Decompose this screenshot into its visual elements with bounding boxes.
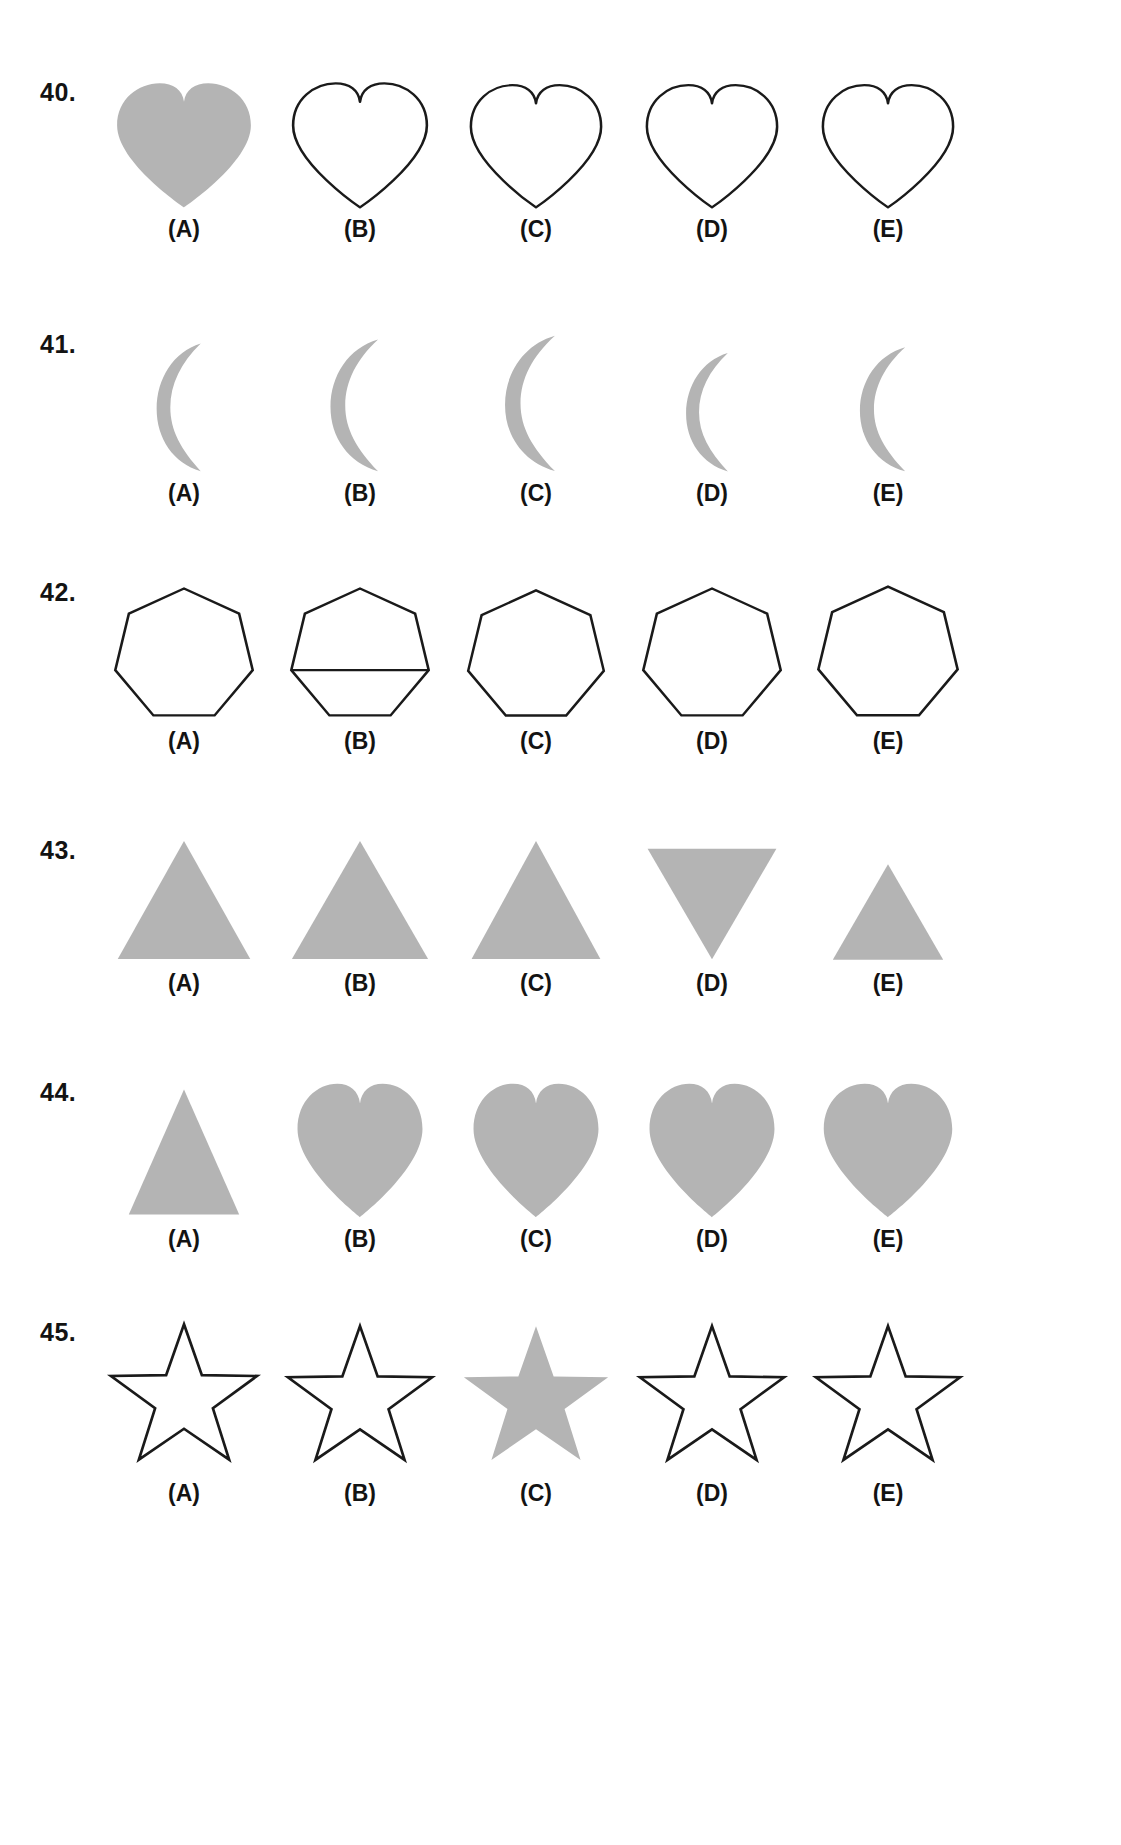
- option-label: (E): [873, 1226, 904, 1253]
- option-label: (A): [168, 970, 200, 997]
- heart-icon: [815, 1078, 961, 1220]
- option-label: (E): [873, 970, 904, 997]
- answer-option[interactable]: (C): [448, 836, 624, 997]
- option-label: (D): [696, 1480, 728, 1507]
- heart-icon: [465, 1078, 607, 1220]
- heart-icon: [289, 1078, 431, 1220]
- option-label: (C): [520, 480, 552, 507]
- answer-option[interactable]: (A): [96, 836, 272, 997]
- question-number: 41.: [40, 330, 76, 359]
- option-list: (A)(B)(C)(D)(E): [96, 578, 1111, 755]
- answer-option[interactable]: (D): [624, 330, 800, 507]
- question-number: 45.: [40, 1318, 76, 1347]
- option-label: (E): [873, 1480, 904, 1507]
- answer-option[interactable]: (B): [272, 1078, 448, 1253]
- option-label: (B): [344, 1226, 376, 1253]
- heart-icon: [108, 78, 260, 210]
- answer-option[interactable]: (B): [272, 836, 448, 997]
- answer-option[interactable]: (A): [96, 78, 272, 243]
- worksheet-page: 40.(A)(B)(C)(D)(E)41.(A)(B)(C)(D)(E)42.(…: [0, 0, 1121, 1845]
- crescent-icon: [146, 330, 222, 474]
- heart-icon: [641, 1078, 783, 1220]
- triangle-icon: [642, 836, 782, 964]
- answer-option[interactable]: (A): [96, 1078, 272, 1253]
- question-number: 42.: [40, 578, 76, 607]
- answer-option[interactable]: (E): [800, 78, 976, 243]
- option-label: (A): [168, 728, 200, 755]
- answer-option[interactable]: (E): [800, 1318, 976, 1507]
- answer-option[interactable]: (C): [448, 330, 624, 507]
- option-label: (A): [168, 1480, 200, 1507]
- option-label: (B): [344, 216, 376, 243]
- answer-option[interactable]: (B): [272, 578, 448, 755]
- answer-option[interactable]: (D): [624, 578, 800, 755]
- question-number: 44.: [40, 1078, 76, 1107]
- crescent-icon: [493, 330, 579, 474]
- answer-option[interactable]: (B): [272, 78, 448, 243]
- heptagon-icon: [812, 578, 964, 722]
- option-label: (D): [696, 1226, 728, 1253]
- heptagon-icon: [637, 578, 787, 722]
- star-icon: [633, 1318, 791, 1474]
- option-label: (E): [873, 728, 904, 755]
- option-label: (D): [696, 728, 728, 755]
- triangle-icon: [466, 836, 606, 964]
- crescent-icon: [676, 330, 748, 474]
- answer-option[interactable]: (C): [448, 78, 624, 243]
- heart-icon: [284, 78, 436, 210]
- star-icon: [281, 1318, 439, 1474]
- answer-option[interactable]: (C): [448, 578, 624, 755]
- triangle-icon: [286, 836, 434, 964]
- option-label: (A): [168, 1226, 200, 1253]
- option-label: (D): [696, 480, 728, 507]
- heart-icon: [462, 78, 610, 210]
- option-label: (A): [168, 216, 200, 243]
- option-label: (C): [520, 728, 552, 755]
- answer-option[interactable]: (D): [624, 78, 800, 243]
- answer-option[interactable]: (C): [448, 1078, 624, 1253]
- option-label: (E): [873, 480, 904, 507]
- option-label: (C): [520, 970, 552, 997]
- triangle-icon: [112, 836, 256, 964]
- option-list: (A)(B)(C)(D)(E): [96, 78, 1111, 243]
- option-label: (C): [520, 216, 552, 243]
- question-number: 40.: [40, 78, 76, 107]
- option-label: (E): [873, 216, 904, 243]
- answer-option[interactable]: (D): [624, 1078, 800, 1253]
- heptagon-icon: [462, 578, 610, 722]
- option-label: (D): [696, 970, 728, 997]
- answer-option[interactable]: (E): [800, 836, 976, 997]
- answer-option[interactable]: (A): [96, 1318, 272, 1507]
- heptagon-icon: [109, 578, 259, 722]
- heart-icon: [814, 78, 962, 210]
- star-icon: [809, 1318, 967, 1474]
- option-list: (A)(B)(C)(D)(E): [96, 330, 1111, 507]
- answer-option[interactable]: (A): [96, 578, 272, 755]
- option-label: (D): [696, 216, 728, 243]
- crescent-icon: [319, 330, 401, 474]
- option-label: (C): [520, 1480, 552, 1507]
- crescent-icon: [849, 330, 927, 474]
- heptagon-with-line-icon: [285, 578, 435, 722]
- answer-option[interactable]: (B): [272, 1318, 448, 1507]
- answer-option[interactable]: (D): [624, 836, 800, 997]
- option-label: (B): [344, 728, 376, 755]
- option-list: (A)(B)(C)(D)(E): [96, 836, 1111, 997]
- option-label: (A): [168, 480, 200, 507]
- option-list: (A)(B)(C)(D)(E): [96, 1318, 1111, 1507]
- question-number: 43.: [40, 836, 76, 865]
- answer-option[interactable]: (C): [448, 1318, 624, 1507]
- answer-option[interactable]: (E): [800, 1078, 976, 1253]
- option-label: (C): [520, 1226, 552, 1253]
- star-icon: [457, 1318, 615, 1474]
- triangle-icon: [828, 836, 948, 964]
- answer-option[interactable]: (D): [624, 1318, 800, 1507]
- answer-option[interactable]: (A): [96, 330, 272, 507]
- option-list: (A)(B)(C)(D)(E): [96, 1078, 1111, 1253]
- answer-option[interactable]: (B): [272, 330, 448, 507]
- triangle-icon: [124, 1078, 244, 1220]
- option-label: (B): [344, 480, 376, 507]
- answer-option[interactable]: (E): [800, 330, 976, 507]
- option-label: (B): [344, 970, 376, 997]
- answer-option[interactable]: (E): [800, 578, 976, 755]
